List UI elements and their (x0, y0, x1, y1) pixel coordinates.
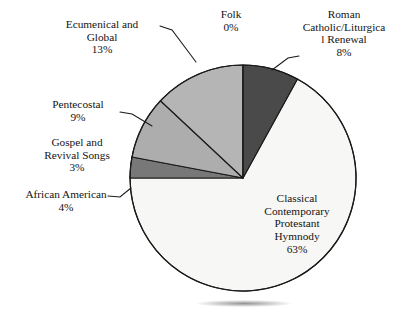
slice-label-classical-percent: 63% (236, 243, 358, 256)
slice-label-classical-line3: Protestant (236, 217, 358, 230)
slice-label-african-percent: 4% (2, 201, 130, 214)
slice-label-gospel-line1: Gospel and (18, 136, 136, 149)
slice-label-ecumenical-line2: Global (36, 31, 168, 44)
slice-label-gospel-percent: 3% (18, 161, 136, 174)
slice-label-classical-line2: Contemporary (236, 205, 358, 218)
slice-label-african-line1: African American (2, 188, 130, 201)
slice-label-classical-line1: Classical (236, 192, 358, 205)
slice-label-roman-line1: Roman (286, 8, 402, 21)
slice-label-pentecostal: Pentecostal 9% (22, 98, 134, 123)
slice-label-ecumenical-percent: 13% (36, 43, 168, 56)
slice-label-classical-contemporary-protestant-hymnody: Classical Contemporary Protestant Hymnod… (236, 192, 358, 255)
slice-label-pentecostal-percent: 9% (22, 111, 134, 124)
slice-label-gospel-and-revival-songs: Gospel and Revival Songs 3% (18, 136, 136, 174)
slice-label-ecumenical-and-global: Ecumenical and Global 13% (36, 18, 168, 56)
slice-label-ecumenical-line1: Ecumenical and (36, 18, 168, 31)
slice-label-african-american: African American 4% (2, 188, 130, 213)
slice-label-roman-line3: l Renewal (286, 33, 402, 46)
slice-label-folk-line1: Folk (198, 8, 264, 21)
slice-label-pentecostal-line1: Pentecostal (22, 98, 134, 111)
slice-label-gospel-line2: Revival Songs (18, 149, 136, 162)
slice-label-folk-percent: 0% (198, 21, 264, 34)
slice-label-roman-line2: Catholic/Liturgica (286, 21, 402, 34)
slice-label-classical-line4: Hymnody (236, 230, 358, 243)
slice-label-roman-percent: 8% (286, 46, 402, 59)
slice-label-folk: Folk 0% (198, 8, 264, 33)
slice-label-roman-catholic-liturgical-renewal: Roman Catholic/Liturgica l Renewal 8% (286, 8, 402, 59)
pie-chart-figure: Ecumenical and Global 13% Folk 0% Roman … (0, 0, 403, 316)
pie-slices (130, 65, 356, 291)
